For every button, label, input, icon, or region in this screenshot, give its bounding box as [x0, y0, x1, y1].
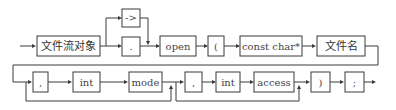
- svg-text:access: access: [257, 77, 290, 88]
- svg-text:int: int: [221, 77, 235, 88]
- syntax-diagram: 文件流对象 -> . open ( const char* 文件名 , int …: [0, 0, 396, 110]
- svg-text:,: ,: [192, 77, 195, 88]
- svg-text:open: open: [166, 41, 191, 52]
- svg-text:const char*: const char*: [242, 41, 300, 52]
- svg-text:): ): [319, 77, 323, 88]
- svg-text:(: (: [214, 41, 218, 52]
- node-arrow-operator: ->: [122, 9, 140, 27]
- svg-text:,: ,: [39, 77, 42, 88]
- svg-text:->: ->: [125, 12, 137, 23]
- node-mode: mode: [129, 72, 162, 92]
- svg-text:文件流对象: 文件流对象: [41, 39, 96, 53]
- svg-text:;: ;: [353, 77, 356, 88]
- node-int-2: int: [216, 72, 240, 92]
- node-right-paren: ): [311, 72, 330, 92]
- node-access: access: [254, 72, 294, 92]
- node-const-char: const char*: [240, 36, 302, 56]
- svg-text:文件名: 文件名: [325, 39, 358, 53]
- node-int-1: int: [73, 72, 100, 92]
- node-semicolon: ;: [345, 72, 364, 92]
- node-left-paren: (: [208, 36, 224, 56]
- node-dot-operator: .: [122, 37, 140, 56]
- node-filename: 文件名: [317, 36, 365, 56]
- svg-text:int: int: [80, 77, 94, 88]
- svg-text:.: .: [129, 41, 132, 52]
- node-comma-2: ,: [185, 72, 202, 92]
- node-comma-1: ,: [33, 72, 48, 92]
- svg-text:mode: mode: [132, 77, 160, 88]
- node-stream: 文件流对象: [37, 36, 100, 56]
- node-open: open: [160, 36, 196, 56]
